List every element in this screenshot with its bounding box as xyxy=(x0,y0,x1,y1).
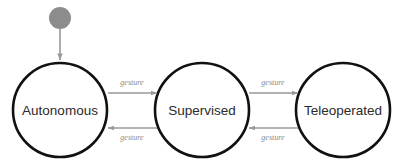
transition-teleoperated-to-supervised[interactable]: gesture xyxy=(249,128,298,142)
transition-supervised-to-autonomous-label: gesture xyxy=(120,133,144,142)
state-supervised-label: Supervised xyxy=(168,103,236,118)
initial-state-marker xyxy=(49,7,71,60)
transition-teleoperated-to-supervised-label: gesture xyxy=(261,133,285,142)
state-teleoperated[interactable]: Teleoperated xyxy=(296,63,390,157)
state-autonomous[interactable]: Autonomous xyxy=(13,63,107,157)
initial-state-dot xyxy=(49,7,71,29)
transition-autonomous-to-supervised-label: gesture xyxy=(120,78,144,87)
transition-supervised-to-teleoperated[interactable]: gesture xyxy=(249,78,298,93)
state-autonomous-label: Autonomous xyxy=(22,103,98,118)
state-supervised[interactable]: Supervised xyxy=(155,63,249,157)
transition-supervised-to-teleoperated-label: gesture xyxy=(261,78,285,87)
state-teleoperated-label: Teleoperated xyxy=(304,103,382,118)
diagram-svg: Autonomous Supervised Teleoperated gestu… xyxy=(0,0,401,168)
transition-autonomous-to-supervised[interactable]: gesture xyxy=(108,78,157,93)
state-machine-diagram: Autonomous Supervised Teleoperated gestu… xyxy=(0,0,401,168)
transition-supervised-to-autonomous[interactable]: gesture xyxy=(108,128,157,142)
